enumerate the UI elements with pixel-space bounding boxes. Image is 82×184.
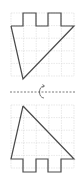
bottom-shape (11, 106, 74, 172)
rotate-arrow-icon (40, 85, 45, 99)
reflection-diagram (0, 0, 82, 184)
top-shape (11, 13, 74, 79)
